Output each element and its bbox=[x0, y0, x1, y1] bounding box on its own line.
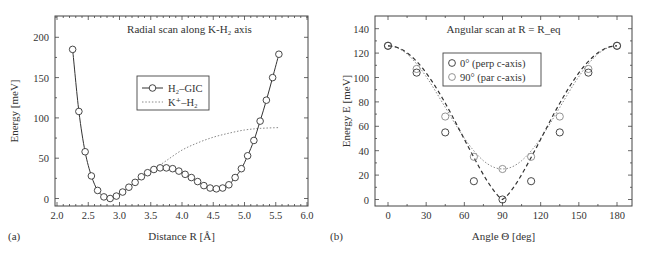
y-tick-label: 40 bbox=[359, 146, 370, 157]
data-point-marker bbox=[151, 166, 158, 173]
x-tick-label: 30 bbox=[421, 210, 432, 221]
data-point-marker bbox=[119, 189, 126, 196]
y-tick-label: 0 bbox=[364, 195, 369, 206]
y-tick-label: 60 bbox=[359, 121, 370, 132]
data-point-marker bbox=[169, 165, 176, 172]
x-tick-label: 6.0 bbox=[300, 210, 313, 221]
data-point-marker bbox=[213, 186, 220, 193]
x-tick-label: 4.0 bbox=[175, 210, 188, 221]
panel-label: (a) bbox=[8, 230, 21, 243]
data-point-marker bbox=[69, 46, 76, 53]
y-axis-label: Energy [meV] bbox=[8, 79, 20, 142]
legend-label: 0° (perp c-axis) bbox=[460, 58, 526, 70]
panel-label: (b) bbox=[330, 230, 343, 243]
x-tick-label: 180 bbox=[609, 210, 625, 221]
x-tick-label: 150 bbox=[571, 210, 587, 221]
x-tick-label: 90 bbox=[497, 210, 508, 221]
x-tick-label: 5.0 bbox=[238, 210, 251, 221]
chart-title: Angular scan at R = R_eq bbox=[446, 23, 561, 35]
x-tick-label: 0 bbox=[385, 210, 390, 221]
x-tick-label: 5.5 bbox=[269, 210, 282, 221]
data-point-marker bbox=[94, 187, 101, 194]
data-point-marker bbox=[101, 194, 108, 201]
y-axis-label: Energy E [meV] bbox=[340, 75, 352, 148]
data-point-0deg bbox=[556, 129, 563, 136]
x-tick-label: 2.0 bbox=[50, 210, 63, 221]
data-point-0deg bbox=[470, 178, 477, 185]
data-point-0deg bbox=[613, 42, 620, 49]
y-tick-label: 200 bbox=[33, 32, 49, 43]
y-tick-label: 120 bbox=[353, 48, 369, 59]
data-point-marker bbox=[188, 174, 195, 181]
x-tick-label: 60 bbox=[459, 210, 470, 221]
data-point-marker bbox=[163, 165, 170, 172]
x-tick-label: 3.5 bbox=[144, 210, 157, 221]
data-point-marker bbox=[194, 178, 201, 185]
data-point-0deg bbox=[442, 129, 449, 136]
data-point-marker bbox=[144, 169, 151, 176]
data-point-marker bbox=[207, 185, 214, 192]
y-tick-label: 0 bbox=[44, 194, 49, 205]
data-point-marker bbox=[232, 174, 239, 181]
data-point-marker bbox=[251, 137, 258, 144]
panel-a: 2.02.53.03.54.04.55.05.56.0050100150200D… bbox=[8, 16, 314, 243]
x-tick-label: 120 bbox=[533, 210, 549, 221]
x-axis-label: Distance R [Å] bbox=[148, 230, 215, 242]
y-tick-label: 20 bbox=[359, 170, 370, 181]
y-tick-label: 100 bbox=[33, 113, 49, 124]
data-point-marker bbox=[226, 181, 233, 188]
plot-frame bbox=[375, 16, 632, 206]
data-point-marker bbox=[276, 51, 283, 58]
legend-label: H₂–GIC bbox=[168, 83, 203, 94]
x-tick-label: 4.5 bbox=[207, 210, 220, 221]
data-point-marker bbox=[126, 184, 133, 191]
data-point-90deg bbox=[442, 113, 449, 120]
data-point-90deg bbox=[470, 153, 477, 160]
y-tick-label: 50 bbox=[39, 153, 50, 164]
data-point-marker bbox=[107, 195, 114, 202]
y-tick-label: 100 bbox=[353, 73, 369, 84]
y-tick-label: 80 bbox=[359, 97, 370, 108]
data-point-marker bbox=[176, 168, 183, 175]
x-axis-label: Angle Θ [deg] bbox=[472, 230, 536, 242]
x-tick-label: 3.0 bbox=[113, 210, 126, 221]
chart-title: Radial scan along K-H₂ axis bbox=[127, 23, 252, 35]
legend: 0° (perp c-axis)90° (par c-axis) bbox=[443, 53, 541, 86]
data-point-marker bbox=[88, 173, 95, 180]
panel-b: 0306090120150180020406080100120140Angle … bbox=[330, 16, 632, 243]
data-point-marker bbox=[257, 118, 264, 125]
data-point-90deg bbox=[556, 113, 563, 120]
data-point-0deg bbox=[528, 178, 535, 185]
data-point-marker bbox=[157, 165, 164, 172]
x-tick-label: 2.5 bbox=[82, 210, 95, 221]
y-tick-label: 150 bbox=[33, 73, 49, 84]
data-point-marker bbox=[244, 152, 251, 159]
data-point-marker bbox=[132, 179, 139, 186]
data-point-marker bbox=[138, 173, 145, 180]
series-line-k-h2 bbox=[154, 128, 279, 170]
figure: 2.02.53.03.54.04.55.05.56.0050100150200D… bbox=[0, 0, 647, 255]
data-point-marker bbox=[238, 165, 245, 172]
legend-label: 90° (par c-axis) bbox=[460, 72, 526, 84]
chart-canvas: 2.02.53.03.54.04.55.05.56.0050100150200D… bbox=[0, 0, 647, 255]
data-point-marker bbox=[201, 182, 208, 189]
data-point-marker bbox=[76, 108, 83, 115]
legend: H₂–GICK⁺–H₂ bbox=[137, 76, 209, 110]
legend-label: K⁺–H₂ bbox=[168, 97, 198, 108]
data-point-marker bbox=[219, 185, 226, 192]
data-point-marker bbox=[269, 74, 276, 81]
data-point-marker bbox=[113, 193, 120, 200]
y-tick-label: 140 bbox=[353, 24, 369, 35]
data-point-marker bbox=[263, 97, 270, 104]
legend-circle-marker bbox=[149, 85, 156, 92]
data-point-marker bbox=[82, 148, 89, 155]
data-point-marker bbox=[182, 171, 189, 178]
series-line-h2-gic bbox=[73, 49, 279, 198]
